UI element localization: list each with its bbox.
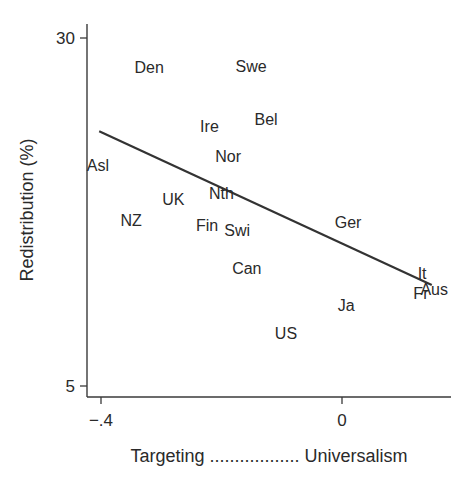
- y-axis: 530: [56, 24, 87, 397]
- country-label-fr: Fr: [413, 285, 429, 302]
- country-label-swi: Swi: [224, 222, 250, 239]
- y-tick-label: 30: [56, 29, 75, 48]
- country-label-ire: Ire: [200, 118, 219, 135]
- y-ticks: 530: [56, 29, 87, 396]
- x-tick-label: −.4: [89, 411, 113, 430]
- x-axis-title: Targeting .................. Universalis…: [130, 446, 407, 466]
- country-label-den: Den: [135, 59, 164, 76]
- y-axis-title: Redistribution (%): [17, 138, 37, 281]
- country-label-us: US: [275, 325, 297, 342]
- x-ticks: −.40: [89, 397, 347, 430]
- country-label-nor: Nor: [215, 148, 241, 165]
- country-label-bel: Bel: [255, 111, 278, 128]
- country-label-nz: NZ: [120, 212, 142, 229]
- country-label-nth: Nth: [209, 185, 234, 202]
- country-label-can: Can: [232, 260, 261, 277]
- x-tick-label: 0: [337, 411, 346, 430]
- scatter-chart: 530 −.40 Redistribution (%) Targeting ..…: [0, 0, 466, 483]
- country-points: DenSweIreBelNorAslNthUKNZFinSwiGerCanItA…: [87, 58, 448, 342]
- country-label-uk: UK: [162, 191, 185, 208]
- country-label-ja: Ja: [338, 297, 355, 314]
- x-axis: −.40: [87, 397, 451, 430]
- country-label-ger: Ger: [335, 214, 362, 231]
- country-label-swe: Swe: [235, 58, 266, 75]
- country-label-asl: Asl: [87, 157, 109, 174]
- y-tick-label: 5: [66, 377, 75, 396]
- country-label-fin: Fin: [196, 217, 218, 234]
- regression-line: [99, 131, 432, 285]
